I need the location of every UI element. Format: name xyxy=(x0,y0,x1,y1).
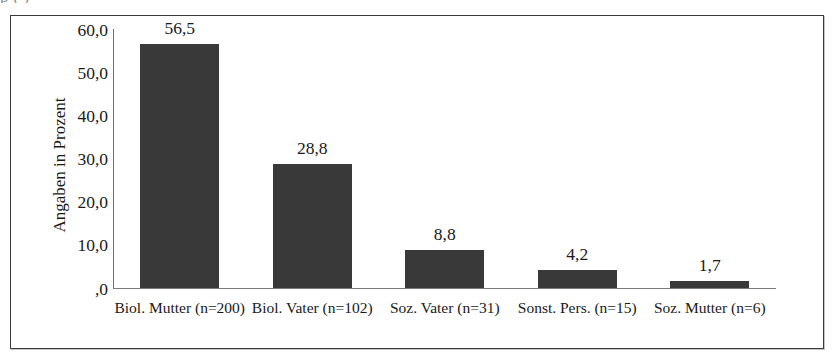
y-axis-line xyxy=(113,29,114,289)
bar-1[interactable] xyxy=(273,164,352,288)
y-tick-label: 40,0 xyxy=(46,108,108,126)
x-tick-label-4: Soz. Mutter (n=6) xyxy=(620,300,800,316)
figure-container: p ( ) Angaben in Prozent 60,0 50,0 40,0 … xyxy=(0,0,837,356)
bar-value-label-1: 28,8 xyxy=(252,140,372,158)
bar-value-label-3: 4,2 xyxy=(517,246,637,264)
y-tick-label: 30,0 xyxy=(46,151,108,169)
y-tick-label: 50,0 xyxy=(46,65,108,83)
bar-4[interactable] xyxy=(670,281,749,288)
plot-area: Angaben in Prozent 60,0 50,0 40,0 30,0 2… xyxy=(0,0,837,356)
bar-2[interactable] xyxy=(405,250,484,288)
bar-value-label-2: 8,8 xyxy=(385,226,505,244)
y-tick-label: ,0 xyxy=(46,281,108,299)
y-tick-label-group: 60,0 50,0 40,0 30,0 20,0 10,0 ,0 xyxy=(44,0,108,300)
y-tick-label: 60,0 xyxy=(46,22,108,40)
y-tick-label: 10,0 xyxy=(46,237,108,255)
y-tick-label: 20,0 xyxy=(46,194,108,212)
bar-value-label-0: 56,5 xyxy=(120,20,240,38)
bar-value-label-4: 1,7 xyxy=(650,257,770,275)
bar-0[interactable] xyxy=(140,44,219,288)
bar-3[interactable] xyxy=(538,270,617,288)
x-axis-line xyxy=(113,288,776,289)
